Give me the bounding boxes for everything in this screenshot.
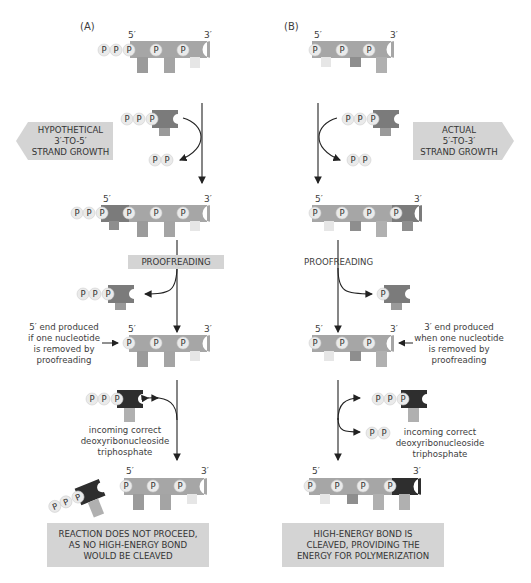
result-box-b: HIGH-ENERGY BOND IS CLEAVED, PROVIDING T… <box>282 523 444 567</box>
five-prime-label: 5′ <box>126 466 134 477</box>
diagram-artwork: P <box>0 0 531 583</box>
removed-nucleotide-a <box>77 285 134 310</box>
three-prime-label: 3′ <box>204 324 212 335</box>
pyrophosphate-b1 <box>347 154 371 166</box>
five-prime-label: 5′ <box>314 30 322 41</box>
proofreading-label-a: PROOFREADING <box>128 255 224 269</box>
panel-a-label: (A) <box>80 21 95 32</box>
result-box-a: REACTION DOES NOT PROCEED, AS NO HIGH-EN… <box>47 523 209 567</box>
three-prime-label: 3′ <box>201 466 209 477</box>
five-prime-label: 5′ <box>103 194 111 205</box>
pyrophosphate-b2 <box>366 427 390 439</box>
three-prime-label: 3′ <box>413 466 421 477</box>
direction-box-a: HYPOTHETICAL 3′-TO-5′ STRAND GROWTH <box>28 122 113 160</box>
incoming-note-a: incoming correct deoxyribonucleoside tri… <box>80 425 170 458</box>
five-prime-label: 5′ <box>315 194 323 205</box>
three-prime-label: 3′ <box>390 324 398 335</box>
strand-b1 <box>309 41 395 73</box>
pyrophosphate-a1 <box>149 154 173 166</box>
incoming-nucleotide-b1 <box>342 110 399 136</box>
three-prime-label: 3′ <box>390 30 398 41</box>
strand-a2 <box>71 205 211 237</box>
end-note-b: 3′ end produced when one nucleotide is r… <box>413 322 505 366</box>
incoming-note-b: incoming correct deoxyribonucleoside tri… <box>392 427 488 460</box>
incoming-nucleotide-a2 <box>86 390 143 422</box>
strand-a3 <box>123 335 211 367</box>
end-note-a: 5′ end produced if one nucleotide is rem… <box>24 322 104 366</box>
five-prime-label: 5′ <box>128 324 136 335</box>
strand-a4 <box>120 478 208 510</box>
proofreading-label-b: PROOFREADING <box>304 257 373 268</box>
panel-b-label: (B) <box>284 21 299 32</box>
five-prime-label: 5′ <box>315 324 323 335</box>
direction-box-b: ACTUAL 5′-TO-3′ STRAND GROWTH <box>413 122 505 160</box>
removed-nucleotide-b <box>377 285 410 310</box>
strand-a1 <box>98 41 211 73</box>
strand-b2 <box>309 205 423 237</box>
three-prime-label: 3′ <box>204 194 212 205</box>
five-prime-label: 5′ <box>128 30 136 41</box>
strand-b3 <box>309 335 395 367</box>
five-prime-label: 5′ <box>312 466 320 477</box>
strand-b4 <box>304 478 422 510</box>
incoming-nucleotide-a1 <box>121 110 178 136</box>
three-prime-label: 3′ <box>204 30 212 41</box>
three-prime-label: 3′ <box>414 194 422 205</box>
incoming-nucleotide-b2 <box>372 390 427 422</box>
dna-polymerization-diagram: P <box>0 0 531 583</box>
